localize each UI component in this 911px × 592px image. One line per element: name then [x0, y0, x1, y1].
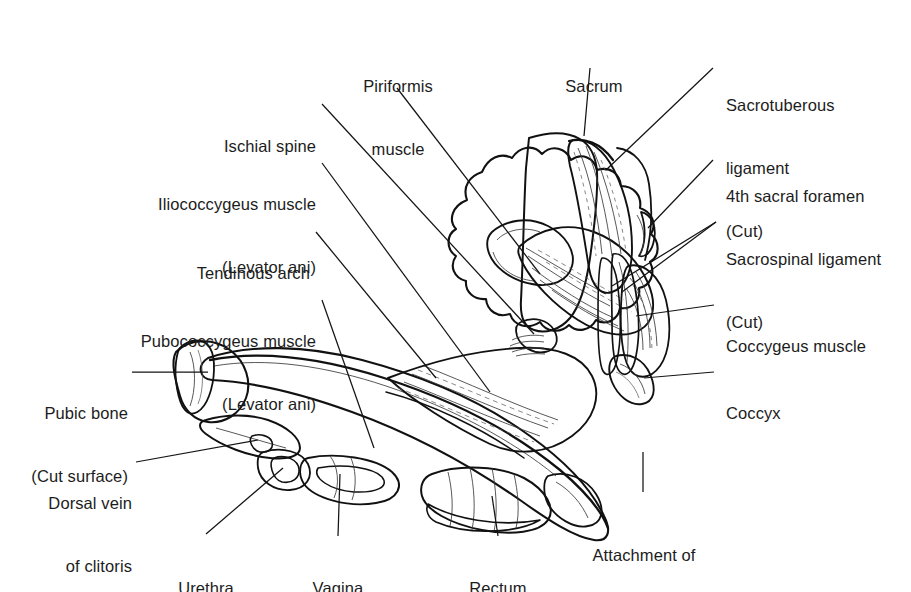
label-sacrum: Sacrum	[542, 34, 646, 118]
label-coccygeus-line1: Coccygeus muscle	[726, 336, 906, 357]
label-iliococcygeus-line1: Iliococcygeus muscle	[96, 194, 316, 215]
label-sacrum-line1: Sacrum	[542, 76, 646, 97]
label-vagina: Vagina	[286, 536, 390, 592]
label-anal-sphincter-attachment: Attachment of external anal sphincter mu…	[553, 503, 735, 592]
label-pubococcygeus-muscle: Pubococcygeus muscle (Levator ani)	[96, 289, 316, 436]
notch-shading	[497, 229, 540, 240]
leader-coccygeus	[636, 305, 714, 316]
label-pubococcygeus-line2: (Levator ani)	[96, 394, 316, 415]
label-coccyx-line1: Coccyx	[726, 403, 846, 424]
label-vagina-line1: Vagina	[286, 578, 390, 592]
label-urethra-line1: Urethra	[150, 578, 262, 592]
label-sacrotuberous-line1: Sacrotuberous	[726, 95, 906, 116]
urethra-shape	[258, 450, 310, 490]
leader-rectum	[492, 496, 498, 536]
label-sacral-foramen-line1: 4th sacral foramen	[726, 186, 906, 207]
label-piriformis: Piriformis muscle	[338, 34, 458, 181]
urethra-lumen	[271, 457, 299, 483]
leader-pubococcygeus	[322, 300, 374, 448]
label-dorsal-vein: Dorsal vein of clitoris	[8, 451, 132, 592]
label-piriformis-line2: muscle	[338, 139, 458, 160]
leader-sacral-foramen	[648, 160, 713, 228]
leader-iliococcygeus	[322, 163, 490, 392]
label-tendinous-arch-line1: Tendinous arch	[126, 263, 310, 284]
label-coccyx: Coccyx	[726, 361, 846, 445]
label-piriformis-line1: Piriformis	[338, 76, 458, 97]
leader-tendinous-arch	[316, 232, 436, 378]
iliococcygeus-muscle-shape	[388, 348, 596, 452]
vagina-lumen	[317, 466, 384, 492]
label-pubococcygeus-line1: Pubococcygeus muscle	[96, 331, 316, 352]
label-rectum: Rectum	[446, 536, 550, 592]
label-rectum-line1: Rectum	[446, 578, 550, 592]
label-urethra: Urethra	[150, 536, 262, 592]
label-dorsal-vein-line2: of clitoris	[8, 556, 132, 577]
label-sacrospinal-line1: Sacrospinal ligament	[726, 249, 908, 270]
leader-vagina	[338, 474, 340, 536]
label-dorsal-vein-line1: Dorsal vein	[8, 493, 132, 514]
label-pubic-bone-line1: Pubic bone	[10, 403, 128, 424]
leader-urethra	[206, 468, 283, 534]
sacral-rim	[617, 148, 651, 260]
leader-sacrospinal-b	[622, 222, 716, 292]
label-sphincter-line1: Attachment of	[553, 545, 735, 566]
